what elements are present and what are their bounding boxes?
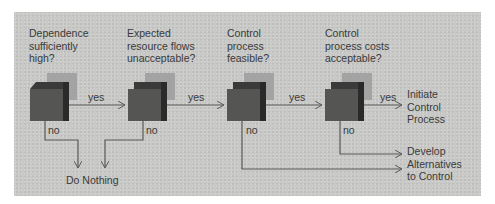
yes-label-2: yes: [188, 91, 204, 103]
yes-label-1: yes: [88, 91, 104, 103]
outcome-do-nothing: Do Nothing: [66, 174, 119, 187]
no-label-4: no: [343, 124, 355, 136]
yes-label-3: yes: [289, 91, 305, 103]
no-label-2: no: [146, 124, 158, 136]
no-label-3: no: [246, 124, 258, 136]
outcome-develop-alternatives: Develop Alternatives to Control: [407, 145, 462, 183]
yes-label-4: yes: [380, 91, 396, 103]
outcome-initiate-control: Initiate Control Process: [407, 88, 445, 126]
no-label-1: no: [48, 124, 60, 136]
